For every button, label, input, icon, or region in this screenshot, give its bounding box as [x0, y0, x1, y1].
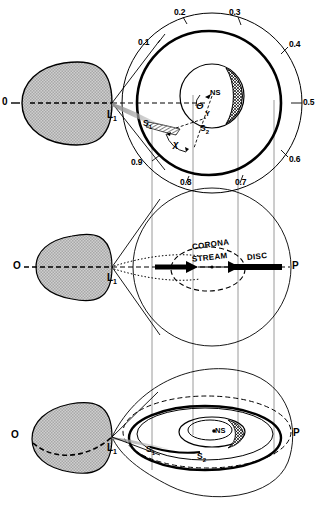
label-ns-top: NS	[210, 89, 220, 97]
label-ns-bottom: NS	[215, 427, 225, 435]
panel-bottom	[32, 369, 293, 497]
chi-arrow-b	[185, 147, 189, 152]
label-s2-bottom: S2	[197, 452, 206, 463]
accretion-disc-outer-rim	[137, 31, 281, 175]
label-s1-bottom: S1	[146, 445, 155, 456]
label-o-middle: O	[13, 261, 21, 271]
label-s2-top: S2	[200, 124, 209, 135]
gas-stream-bottom	[112, 437, 170, 449]
label-l1-bottom: L1	[107, 443, 117, 455]
label-s1-top: S1	[143, 119, 152, 130]
phase-label-0-5: 0.5	[303, 98, 314, 107]
phase-label-0-1: 0.1	[138, 38, 149, 47]
roche-lobe-companion-bottom	[32, 403, 112, 474]
neutron-star-middle	[210, 265, 213, 268]
panel-top	[11, 13, 302, 193]
shock-arc-bottom	[150, 447, 200, 453]
label-o-bottom: O	[11, 430, 19, 440]
sightline-upper	[112, 40, 160, 103]
phase-label-0-3: 0.3	[229, 8, 240, 17]
phase-label-0-7: 0.7	[235, 178, 246, 187]
binary-system-figure	[0, 0, 323, 514]
system-envelope-bottom	[112, 369, 293, 497]
phase-label-0-9: 0.9	[131, 158, 142, 167]
label-p-middle: P	[292, 261, 299, 271]
panel-middle	[24, 188, 291, 346]
phase-tick-leaders	[152, 17, 302, 183]
disc-bulge-stipple-top	[226, 68, 243, 124]
phase-label-0-6: 0.6	[289, 155, 300, 164]
label-theta-top: Θ	[196, 101, 203, 111]
label-y-top: Y	[205, 110, 210, 118]
label-l1-middle: L1	[107, 273, 117, 285]
label-chi-top: χ	[173, 139, 179, 149]
phase-label-0-8: 0.8	[180, 178, 191, 187]
label-l1-top: L1	[107, 110, 117, 122]
phase-label-0-4: 0.4	[289, 40, 300, 49]
phase-label-0-2: 0.2	[174, 8, 185, 17]
envelope-tangent-lower	[112, 267, 160, 335]
label-p-bottom: P	[293, 428, 300, 438]
label-phase-zero-top: 0	[2, 97, 8, 107]
